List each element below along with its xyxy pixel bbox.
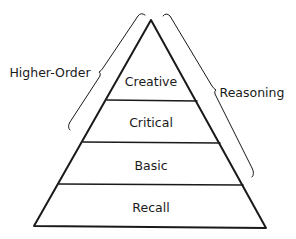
tier-divider-3 (59, 184, 243, 185)
tier-creative-label: Creative (125, 74, 177, 89)
higher-order-label: Higher-Order (9, 65, 90, 80)
tier-divider-1 (107, 100, 197, 101)
reasoning-label: Reasoning (220, 85, 285, 100)
tier-divider-2 (83, 142, 220, 143)
tier-basic-label: Basic (134, 158, 167, 173)
tier-critical-label: Critical (129, 115, 173, 130)
tier-recall-label: Recall (132, 200, 169, 215)
